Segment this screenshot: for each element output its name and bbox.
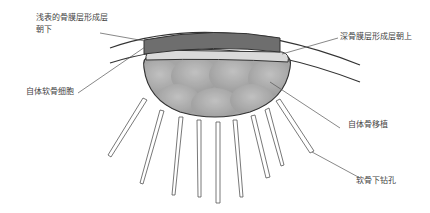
label-deep-periosteum: 深骨膜层形成层朝上	[340, 31, 412, 43]
label-autologous-bone-graft: 自体骨移植	[348, 119, 388, 131]
label-subchondral-drilling: 软骨下钻孔	[356, 175, 396, 187]
label-autologous-chondrocytes: 自体软骨细胞	[26, 86, 74, 98]
label-superficial-periosteum: 浅表的骨膜层形成层 朝下	[36, 12, 108, 36]
